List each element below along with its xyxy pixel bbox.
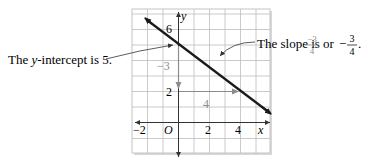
y-axis-label: y [180, 9, 187, 23]
run-label: 4 [203, 97, 209, 111]
x-tick-4: 4 [235, 123, 241, 137]
x-tick-2: 2 [205, 123, 211, 137]
svg-text:.: . [358, 36, 361, 51]
svg-text:−: − [339, 36, 346, 51]
intercept-annotation: The y-intercept is 5. [8, 52, 112, 67]
y-tick-6: 6 [166, 22, 172, 36]
x-axis-label: x [257, 123, 264, 137]
slope-fraction1-den: 4 [310, 46, 315, 56]
slope-fraction2-num: 3 [350, 33, 355, 44]
graph-figure: −2 O 2 4 x 6 2 y −3 4 The y-intercept is… [0, 0, 368, 163]
grid-frame [132, 9, 270, 153]
origin-label: O [164, 123, 173, 137]
y-tick-2: 2 [166, 85, 172, 99]
slope-fraction2-den: 4 [350, 46, 355, 57]
rise-label: −3 [157, 59, 170, 73]
slope-annotation: The slope is −3 4 or − 3 4 . [257, 33, 361, 57]
svg-text:or: or [323, 36, 335, 51]
slope-fraction1-num: −3 [307, 34, 317, 44]
x-tick--2: −2 [133, 123, 146, 137]
